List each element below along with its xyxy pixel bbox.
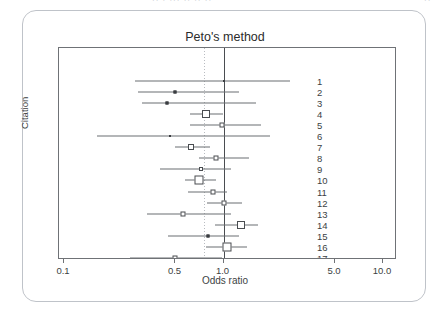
effect-size-marker (214, 156, 219, 161)
effect-size-marker (174, 91, 177, 94)
x-axis-tick (223, 259, 224, 263)
effect-size-marker (194, 176, 203, 185)
study-id-label: 5 (317, 120, 322, 131)
study-id-label: 13 (317, 208, 328, 219)
effect-size-marker (211, 189, 216, 194)
study-id-label: 11 (317, 186, 327, 197)
screenshot-root: ·· · ··· ·· ·· ·· ·· Peto's method Citat… (0, 0, 448, 322)
x-axis-tick (334, 259, 335, 263)
x-axis-tick (63, 259, 64, 263)
effect-size-marker (173, 255, 178, 258)
study-id-label: 15 (317, 230, 328, 241)
effect-size-marker (223, 80, 225, 82)
cropped-header-strip: ·· · ··· ·· ·· ·· ·· (0, 0, 448, 9)
study-id-label: 8 (317, 153, 322, 164)
study-id-label: 16 (317, 241, 328, 252)
study-id-label: 12 (317, 197, 328, 208)
plot-area: 1234567891011121314151617Combined : fixe… (59, 48, 395, 258)
effect-size-marker (222, 242, 231, 251)
confidence-interval-line (135, 81, 289, 82)
confidence-interval-line (160, 169, 231, 170)
study-id-label: 4 (317, 109, 322, 120)
plot-frame: 1234567891011121314151617Combined : fixe… (58, 47, 396, 259)
study-id-label: 9 (317, 164, 322, 175)
effect-size-marker (220, 123, 225, 128)
chart-card: Peto's method Citation 12345678910111213… (22, 10, 426, 302)
confidence-interval-line (190, 125, 261, 126)
study-id-label: 3 (317, 98, 322, 109)
study-id-label: 1 (317, 76, 322, 87)
chart-title: Peto's method (23, 30, 427, 44)
effect-size-marker (199, 167, 203, 171)
confidence-interval-line (199, 158, 249, 159)
x-axis-tick (174, 259, 175, 263)
confidence-interval-line (97, 136, 270, 137)
effect-size-marker (221, 200, 226, 205)
header-fragment-right: ·· (424, 0, 431, 5)
x-axis-tick (382, 259, 383, 263)
effect-size-marker (237, 221, 245, 229)
study-id-label: 6 (317, 131, 322, 142)
effect-size-marker (165, 102, 168, 105)
y-axis-title: Citation (19, 97, 30, 129)
effect-size-marker (181, 211, 186, 216)
forest-row[interactable] (59, 252, 395, 258)
confidence-interval-line (168, 235, 239, 236)
study-id-label: 17 (317, 252, 328, 258)
confidence-interval-line (147, 213, 232, 214)
confidence-interval-line (142, 103, 256, 104)
confidence-interval-line (188, 191, 227, 192)
study-id-label: 10 (317, 175, 328, 186)
study-id-label: 2 (317, 87, 322, 98)
study-id-label: 7 (317, 142, 322, 153)
effect-size-marker (169, 135, 171, 137)
effect-size-marker (207, 234, 210, 237)
header-fragment-left: ·· · ··· ·· ·· ·· (152, 0, 212, 5)
effect-size-marker (202, 110, 210, 118)
x-axis-title: Odds ratio (23, 275, 427, 286)
effect-size-marker (188, 144, 194, 150)
study-id-label: 14 (317, 219, 328, 230)
confidence-interval-line (138, 92, 239, 93)
